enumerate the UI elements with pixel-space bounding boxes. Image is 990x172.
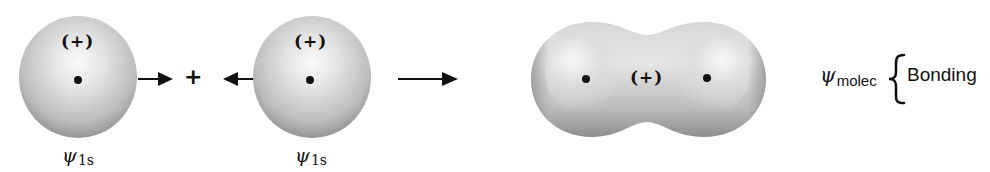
nucleus-dot-right <box>703 74 711 82</box>
psi-symbol: ψ <box>295 144 310 166</box>
psi-subscript: molec <box>837 72 877 89</box>
reaction-arrow-icon <box>398 72 458 86</box>
approach-arrow-right-icon <box>138 72 173 86</box>
psi-subscript: 1s <box>311 152 327 168</box>
plus-operator: + <box>184 64 202 89</box>
psi-symbol: ψ <box>820 63 836 87</box>
nucleus-dot <box>306 76 314 84</box>
psi-subscript: 1s <box>78 152 94 168</box>
bonding-label: Bonding <box>907 64 977 86</box>
sign-label-right: (+) <box>294 31 327 51</box>
sign-label-molecule: (+) <box>630 67 663 87</box>
sign-label-left: (+) <box>61 31 94 51</box>
psi-symbol: ψ <box>62 144 77 166</box>
nucleus-dot <box>74 76 82 84</box>
psi-1s-label-left: ψ1s <box>62 144 94 168</box>
nucleus-dot-left <box>582 75 590 83</box>
curly-brace-icon <box>889 55 904 103</box>
approach-arrow-left-icon <box>223 72 254 86</box>
psi-1s-label-right: ψ1s <box>295 144 327 168</box>
psi-molec-label: ψmolec <box>820 63 877 89</box>
